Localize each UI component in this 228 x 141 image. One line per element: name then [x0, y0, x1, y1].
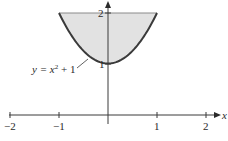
x-tick-label-neg2: −2	[4, 120, 16, 132]
y-tick-label-1: 1	[99, 58, 105, 70]
x-tick-label-1: 1	[154, 120, 160, 132]
chart-svg: x −2 −1 1 2 2 1 y = x2 + 1	[0, 0, 228, 141]
x-axis-arrow-icon	[214, 112, 221, 118]
x-tick-label-2: 2	[203, 120, 209, 132]
y-axis-arrow-icon	[105, 1, 111, 8]
x-axis-label: x	[221, 109, 227, 121]
chart-container: x −2 −1 1 2 2 1 y = x2 + 1	[0, 0, 228, 141]
x-tick-label-neg1: −1	[53, 120, 65, 132]
curve-label-leader	[77, 59, 88, 68]
y-tick-label-2: 2	[98, 7, 104, 19]
curve-label: y = x2 + 1	[31, 63, 75, 75]
